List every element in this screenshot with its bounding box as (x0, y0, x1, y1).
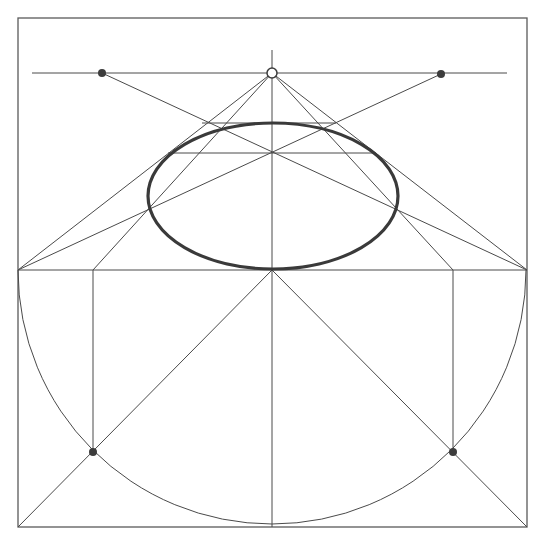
construction-line (272, 73, 527, 270)
construction-line (272, 73, 453, 270)
construction-line (18, 270, 272, 527)
vanishing-point-icon (267, 68, 277, 78)
construction-line (18, 73, 272, 270)
perspective-circle-ellipse (148, 123, 398, 269)
perspective-diagram (0, 0, 542, 547)
construction-line (102, 73, 527, 270)
measuring-point-dot-icon (89, 448, 97, 456)
construction-line (272, 270, 527, 527)
construction-line (93, 73, 272, 270)
distance-point-dot-icon (98, 69, 106, 77)
measuring-points (89, 448, 457, 456)
construction-line (18, 74, 441, 270)
distance-point-dot-icon (437, 70, 445, 78)
measuring-point-dot-icon (449, 448, 457, 456)
